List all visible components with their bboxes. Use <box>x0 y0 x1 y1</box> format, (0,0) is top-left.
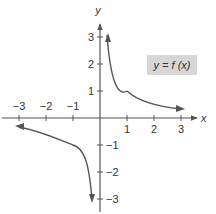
arrow-head-icon <box>176 105 185 112</box>
function-label: y = f (x) <box>147 55 197 75</box>
x-axis-label: x <box>200 112 207 124</box>
y-tick-label: −3 <box>106 193 119 205</box>
arrow-head-icon <box>105 33 111 42</box>
y-axis-label: y <box>94 4 102 16</box>
y-tick-label: 3 <box>88 31 94 43</box>
x-tick-label: 3 <box>178 123 184 135</box>
y-tick-label: −2 <box>106 166 119 178</box>
function-label-text: y = f (x) <box>153 59 191 71</box>
curve-branch-negative <box>19 127 92 199</box>
y-tick-label: 2 <box>88 58 94 70</box>
y-tick-label: 1 <box>88 85 94 97</box>
x-tick-label: 2 <box>151 123 157 135</box>
x-tick-label: −1 <box>67 100 80 112</box>
x-tick-label: −3 <box>13 100 26 112</box>
x-tick-label: −2 <box>40 100 53 112</box>
y-tick-label: −1 <box>106 139 119 151</box>
function-graph: −3 −2 −1 1 2 3 3 2 1 −1 −2 −3 x y y = f … <box>0 0 216 214</box>
x-tick-label: 1 <box>124 123 130 135</box>
arrow-head-icon <box>15 123 24 130</box>
arrow-head-icon <box>89 194 95 203</box>
